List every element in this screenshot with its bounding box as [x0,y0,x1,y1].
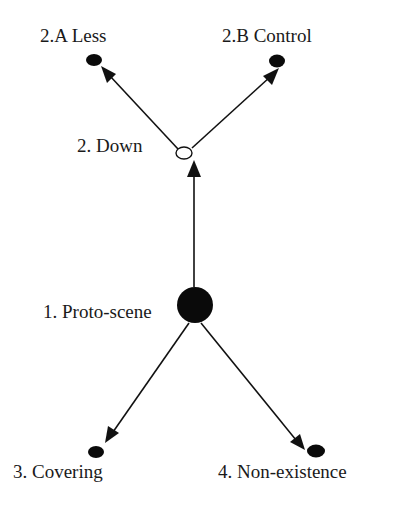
node-nonexistence [307,445,325,458]
label-covering: 3. Covering [13,461,103,482]
label-nonexistence: 4. Non-existence [218,461,347,482]
label-proto-scene: 1. Proto-scene [43,301,152,322]
edge-proto-to-down [187,160,201,287]
node-control [269,55,285,68]
edge-down-to-control [192,68,279,148]
label-down: 2. Down [77,135,143,156]
edge-proto-to-nonexistence [201,323,305,450]
node-proto-scene [177,287,213,323]
edge-proto-to-covering [105,323,189,443]
label-control: 2.B Control [222,25,312,46]
node-covering [88,446,104,458]
label-less: 2.A Less [40,25,107,46]
semantic-network-diagram: 2.A Less 2.B Control 2. Down 1. Proto-sc… [0,0,395,511]
node-less [86,54,102,66]
node-down [176,147,192,159]
